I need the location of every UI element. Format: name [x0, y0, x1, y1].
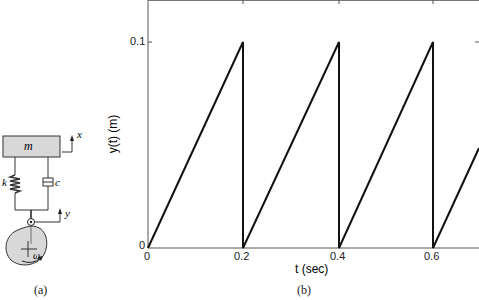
- sawtooth-line: [148, 42, 479, 248]
- caption-b: (b): [297, 283, 311, 298]
- x-axis-label: t (sec): [295, 262, 328, 276]
- ytick-0.1: 0.1: [130, 35, 145, 47]
- xtick-0.4: 0.4: [330, 250, 345, 262]
- xtick-0: 0: [144, 250, 150, 262]
- y-axis-label: y(t) (m): [106, 115, 120, 154]
- xtick-0.2: 0.2: [234, 250, 249, 262]
- xtick-0.6: 0.6: [424, 250, 439, 262]
